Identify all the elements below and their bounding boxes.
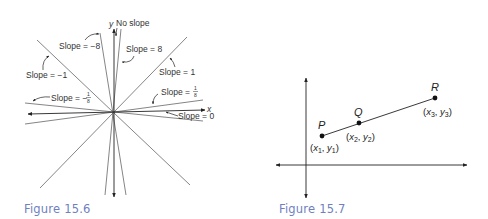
point-q: Q (x2, y2) <box>346 106 375 143</box>
figure-caption: Figure 15.7 <box>279 202 346 216</box>
svg-text:P: P <box>318 119 326 131</box>
label-slope-neg8: Slope = −8 <box>59 41 100 51</box>
svg-text:(x1, y1): (x1, y1) <box>310 142 339 154</box>
svg-text:Q: Q <box>354 106 363 118</box>
svg-text:Slope = −: Slope = − <box>51 93 87 103</box>
svg-text:8: 8 <box>87 98 90 104</box>
figure-15-7: P (x1, y1) Q (x2, y2) R (x3, y3) Figure … <box>244 0 488 219</box>
figure-15-6: y x No slope Slope = −8 Slope = 8 Slope … <box>0 0 244 219</box>
label-slope-8: Slope = 8 <box>126 44 162 54</box>
point-r: R (x3, y3) <box>423 81 452 118</box>
collinear-points-diagram: P (x1, y1) Q (x2, y2) R (x3, y3) <box>244 0 488 219</box>
slopes-diagram: y x No slope Slope = −8 Slope = 8 Slope … <box>0 0 244 219</box>
segment-pqr <box>322 98 435 136</box>
svg-text:8: 8 <box>194 92 197 98</box>
svg-text:(x3, y3): (x3, y3) <box>423 106 452 118</box>
label-slope-neg1-8: Slope = − 1 8 <box>51 91 91 104</box>
svg-text:(x2, y2): (x2, y2) <box>346 131 375 143</box>
label-slope-neg1: Slope = −1 <box>26 70 67 80</box>
figure-caption: Figure 15.6 <box>24 202 91 216</box>
label-slope-1-8: Slope = 1 8 <box>161 85 198 98</box>
label-slope-1: Slope = 1 <box>159 67 195 77</box>
svg-text:1: 1 <box>87 91 90 97</box>
svg-text:1: 1 <box>194 85 197 91</box>
point-p: P (x1, y1) <box>310 119 339 154</box>
y-axis-label: y <box>108 19 114 29</box>
label-no-slope: No slope <box>116 18 150 28</box>
label-slope-0: Slope = 0 <box>178 111 214 121</box>
svg-text:R: R <box>431 81 439 93</box>
svg-text:Slope =: Slope = <box>161 87 190 97</box>
